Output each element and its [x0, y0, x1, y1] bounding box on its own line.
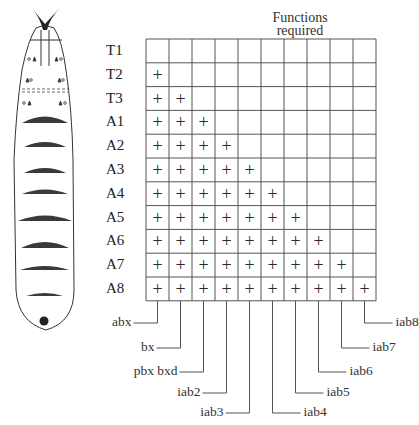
required-mark: + — [221, 136, 231, 156]
required-mark: + — [290, 231, 300, 251]
required-mark: + — [267, 184, 277, 204]
required-mark: + — [198, 231, 208, 251]
required-mark: + — [267, 279, 277, 299]
required-mark: + — [175, 136, 185, 156]
required-mark: + — [244, 279, 254, 299]
required-mark: + — [267, 208, 277, 228]
required-mark: + — [175, 89, 185, 109]
gene-label-pbx-bxd: pbx bxd — [134, 363, 178, 379]
required-mark: + — [221, 208, 231, 228]
required-mark: + — [152, 89, 162, 109]
required-mark: + — [175, 255, 185, 275]
required-mark: + — [313, 231, 323, 251]
gene-label-iab2: iab2 — [177, 384, 200, 400]
required-mark: + — [313, 255, 323, 275]
gene-label-iab8: iab8 — [396, 314, 419, 330]
required-mark: + — [152, 279, 162, 299]
required-mark: + — [198, 184, 208, 204]
required-mark: + — [244, 231, 254, 251]
required-mark: + — [198, 255, 208, 275]
required-mark: + — [198, 279, 208, 299]
required-mark: + — [336, 255, 346, 275]
gene-label-iab3: iab3 — [200, 404, 223, 420]
required-mark: + — [198, 160, 208, 180]
required-mark: + — [221, 184, 231, 204]
required-mark: + — [175, 208, 185, 228]
required-mark: + — [244, 255, 254, 275]
required-mark: + — [336, 279, 346, 299]
required-mark: + — [152, 136, 162, 156]
required-mark: + — [290, 208, 300, 228]
required-mark: + — [267, 231, 277, 251]
required-mark: + — [244, 184, 254, 204]
gene-label-abx: abx — [112, 314, 132, 330]
required-mark: + — [267, 255, 277, 275]
required-mark: + — [244, 160, 254, 180]
required-mark: + — [198, 136, 208, 156]
required-mark: + — [152, 231, 162, 251]
required-mark: + — [152, 208, 162, 228]
required-mark: + — [198, 112, 208, 132]
required-mark: + — [175, 160, 185, 180]
required-mark: + — [290, 279, 300, 299]
required-mark: + — [175, 279, 185, 299]
required-mark: + — [152, 65, 162, 85]
required-mark: + — [313, 279, 323, 299]
required-mark: + — [244, 208, 254, 228]
required-mark: + — [221, 255, 231, 275]
required-mark: + — [152, 255, 162, 275]
required-mark: + — [290, 255, 300, 275]
gene-label-iab6: iab6 — [350, 363, 373, 379]
required-mark: + — [152, 160, 162, 180]
required-mark: + — [175, 231, 185, 251]
required-mark: + — [198, 208, 208, 228]
gene-label-iab4: iab4 — [304, 404, 327, 420]
required-mark: + — [175, 184, 185, 204]
required-mark: + — [221, 279, 231, 299]
gene-label-iab5: iab5 — [327, 384, 350, 400]
gene-label-bx: bx — [141, 339, 155, 355]
required-mark: + — [152, 184, 162, 204]
required-mark: + — [152, 112, 162, 132]
gene-label-iab7: iab7 — [373, 339, 396, 355]
required-mark: + — [359, 279, 369, 299]
required-mark: + — [221, 231, 231, 251]
required-mark: + — [221, 160, 231, 180]
required-mark: + — [175, 112, 185, 132]
